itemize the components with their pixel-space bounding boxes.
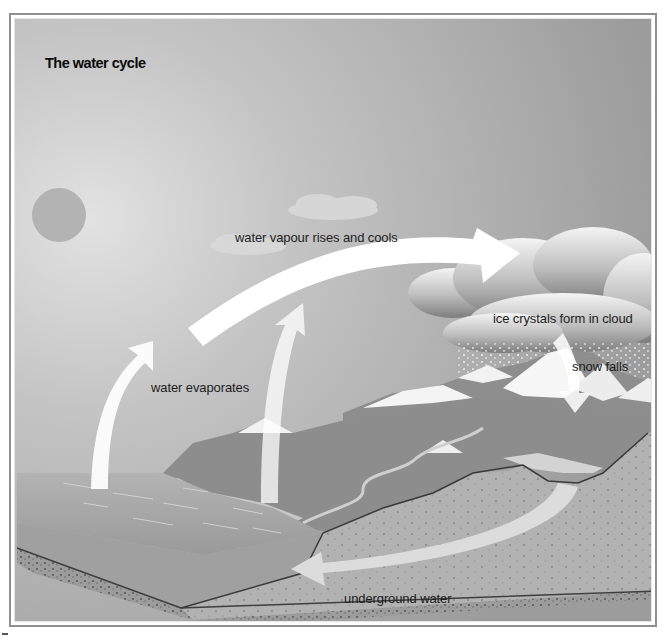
label-ice-crystals: ice crystals form in cloud	[493, 311, 633, 326]
label-water-vapour: water vapour rises and cools	[235, 230, 398, 245]
diagram-frame: The water cycle water vapour rises and c…	[9, 13, 657, 627]
diagram-canvas: The water cycle water vapour rises and c…	[14, 18, 652, 622]
label-snow-falls: snow falls	[572, 359, 628, 374]
label-water-evaporates: water evaporates	[151, 380, 249, 395]
label-underground-water: underground water	[344, 591, 451, 606]
sun-icon	[32, 188, 86, 242]
diagram-title: The water cycle	[45, 55, 146, 71]
page-mark	[2, 633, 8, 635]
